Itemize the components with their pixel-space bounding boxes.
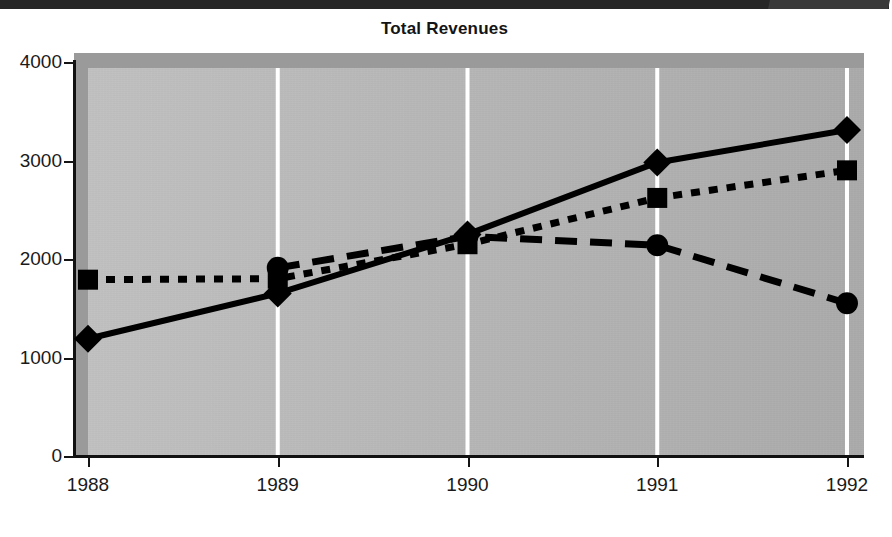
x-axis-tick-mark bbox=[468, 456, 470, 467]
data-point-circle bbox=[836, 292, 858, 314]
data-point-square bbox=[837, 160, 857, 180]
x-axis-tick-label: 1992 bbox=[802, 474, 892, 496]
y-axis-tick-mark bbox=[64, 161, 75, 163]
data-point-diamond bbox=[643, 148, 671, 176]
y-axis-tick-mark bbox=[64, 62, 75, 64]
x-axis-tick-label: 1989 bbox=[233, 474, 323, 496]
x-axis-tick-label: 1990 bbox=[423, 474, 513, 496]
data-point-diamond bbox=[833, 116, 861, 144]
data-point-circle bbox=[267, 257, 289, 279]
y-axis-tick-mark bbox=[64, 358, 75, 360]
x-axis-tick-mark bbox=[278, 456, 280, 467]
y-axis-tick-mark bbox=[64, 259, 75, 261]
data-point-circle bbox=[646, 234, 668, 256]
x-axis-tick-label: 1991 bbox=[612, 474, 702, 496]
x-axis-tick-mark bbox=[657, 456, 659, 467]
data-point-square bbox=[647, 188, 667, 208]
data-point-circle bbox=[457, 225, 479, 247]
data-point-square bbox=[78, 270, 98, 290]
y-axis-tick-mark bbox=[64, 456, 75, 458]
x-axis-tick-label: 1988 bbox=[43, 474, 133, 496]
data-point-diamond bbox=[74, 325, 102, 353]
x-axis-tick-mark bbox=[88, 456, 90, 467]
x-axis-tick-mark bbox=[847, 456, 849, 467]
